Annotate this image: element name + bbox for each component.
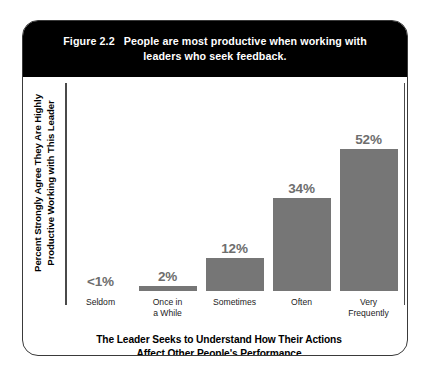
bar-group-often: 34% — [268, 83, 335, 291]
figure-title: Figure 2.2People are most productive whe… — [63, 34, 367, 64]
category-label-seldom: Seldom — [67, 297, 134, 331]
plot-area: <1% 2% 12% 34% 52% — [67, 83, 402, 291]
bar-group-seldom: <1% — [67, 83, 134, 291]
figure-title-line-2: leaders who seek feedback. — [143, 50, 286, 62]
bar-value-sometimes: 12% — [221, 242, 247, 256]
x-axis-category-labels: Seldom Once in a While Sometimes Often V… — [67, 297, 402, 331]
bar-value-once-in-a-while: 2% — [158, 270, 177, 284]
bar-value-seldom: <1% — [87, 275, 114, 289]
bar-often — [273, 198, 331, 291]
bar-value-often: 34% — [288, 182, 314, 196]
category-label-often: Often — [268, 297, 335, 331]
category-label-once-in-a-while-line-2: a While — [134, 308, 201, 319]
category-label-sometimes: Sometimes — [201, 297, 268, 331]
y-axis-label: Percent Strongly Agree They Are Highly P… — [27, 79, 61, 287]
category-label-very-frequently-line-2: Frequently — [335, 308, 402, 319]
bar-group-very-frequently: 52% — [335, 83, 402, 291]
chart-body: Percent Strongly Agree They Are Highly P… — [23, 77, 407, 355]
bar-sometimes — [206, 258, 264, 291]
category-label-seldom-line-1: Seldom — [67, 297, 134, 308]
x-axis-title: The Leader Seeks to Understand How Their… — [41, 333, 397, 356]
x-axis-title-line-1: The Leader Seeks to Understand How Their… — [41, 333, 397, 347]
bar-very-frequently — [340, 149, 398, 291]
category-label-very-frequently-line-1: Very — [335, 297, 402, 308]
figure-frame: Figure 2.2People are most productive whe… — [22, 20, 408, 356]
y-axis-label-line-2: Productive Working with This Leader — [44, 100, 57, 265]
figure-header-banner: Figure 2.2People are most productive whe… — [23, 21, 407, 77]
y-axis-label-line-1: Percent Strongly Agree They Are Highly — [31, 94, 44, 272]
category-label-once-in-a-while: Once in a While — [134, 297, 201, 331]
bar-group-sometimes: 12% — [201, 83, 268, 291]
bar-group-once-in-a-while: 2% — [134, 83, 201, 291]
figure-number: Figure 2.2 — [63, 35, 114, 47]
figure-title-line-1: People are most productive when working … — [124, 35, 367, 47]
bar-once-in-a-while — [139, 286, 197, 291]
bar-value-very-frequently: 52% — [355, 133, 381, 147]
plot-right-spine — [404, 83, 406, 305]
category-label-once-in-a-while-line-1: Once in — [134, 297, 201, 308]
category-label-very-frequently: Very Frequently — [335, 297, 402, 331]
x-axis-title-line-2: Affect Other People's Performance — [41, 347, 397, 356]
category-label-sometimes-line-1: Sometimes — [201, 297, 268, 308]
category-label-often-line-1: Often — [268, 297, 335, 308]
